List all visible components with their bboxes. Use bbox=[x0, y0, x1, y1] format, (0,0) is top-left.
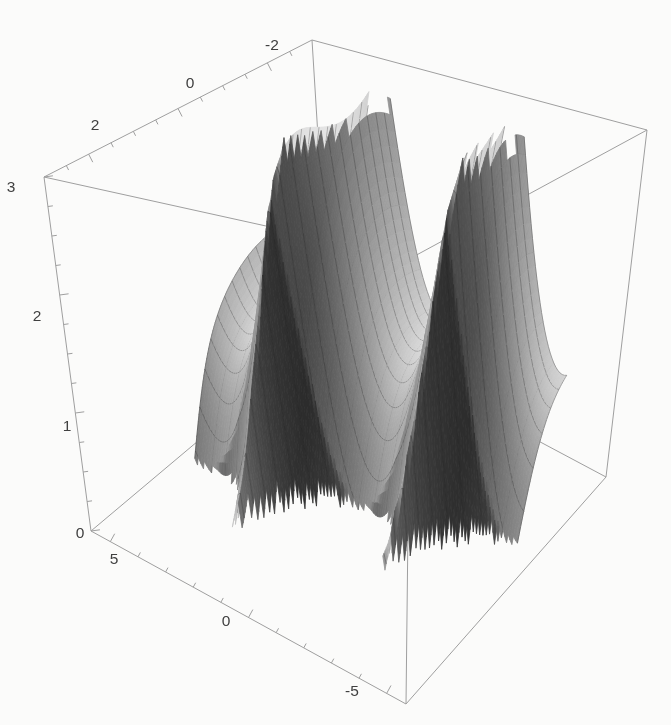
surface-plot-figure bbox=[0, 0, 671, 725]
document-page bbox=[0, 0, 671, 725]
surface-plot-canvas bbox=[0, 0, 671, 725]
